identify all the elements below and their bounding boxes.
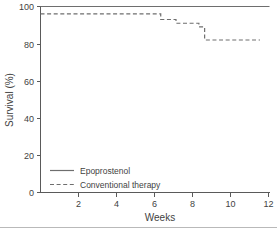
x-axis-title: Weeks bbox=[145, 212, 175, 223]
y-axis-title: Survival (%) bbox=[4, 73, 15, 127]
x-tick-label: 10 bbox=[225, 199, 235, 209]
x-tick-label: 2 bbox=[76, 199, 81, 209]
y-tick-label: 0 bbox=[29, 188, 34, 198]
chart-background bbox=[0, 0, 277, 229]
x-tick-label: 6 bbox=[152, 199, 157, 209]
y-tick-label: 60 bbox=[24, 77, 34, 87]
survival-chart: 0 20 40 60 80 100 2 4 6 8 10 12 Weeks Su… bbox=[0, 0, 277, 229]
y-tick-label: 80 bbox=[24, 40, 34, 50]
y-tick-label: 20 bbox=[24, 151, 34, 161]
y-tick-label: 100 bbox=[19, 2, 34, 12]
x-tick-label: 4 bbox=[114, 199, 119, 209]
legend-label-conventional-therapy: Conventional therapy bbox=[80, 180, 161, 190]
x-tick-label: 8 bbox=[190, 199, 195, 209]
y-tick-label: 40 bbox=[24, 114, 34, 124]
legend-label-epoprostenol: Epoprostenol bbox=[80, 166, 130, 176]
x-tick-label: 12 bbox=[263, 199, 273, 209]
